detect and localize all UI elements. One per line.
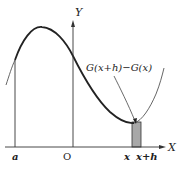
annotation-leader-line [114, 76, 135, 121]
origin-label: O [63, 151, 71, 162]
x-axis-arrow-icon [159, 145, 166, 149]
annotation-label: G(x+h)−G(x) [86, 62, 152, 73]
curve-right-tail [134, 68, 164, 123]
y-axis-arrow-icon [71, 20, 75, 27]
tick-label-x: x [123, 151, 131, 162]
y-axis-label: Y [75, 6, 84, 19]
tick-label-x-plus-h: x+h [135, 151, 158, 162]
curve-left-tail [6, 60, 15, 85]
curve-main [15, 27, 134, 123]
area-function-diagram: Y X O a x x+h G(x+h)−G(x) [0, 0, 180, 171]
tick-label-a: a [12, 151, 18, 162]
x-axis-label: X [167, 141, 177, 154]
shaded-strip [132, 122, 141, 147]
